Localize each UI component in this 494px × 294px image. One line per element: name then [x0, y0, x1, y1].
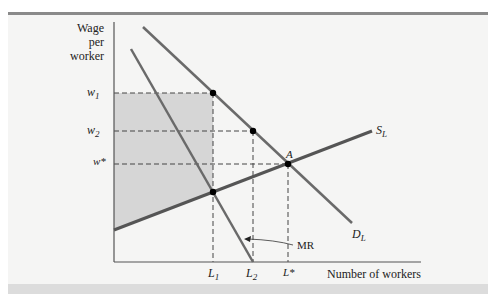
- x-axis-label: Number of workers: [327, 268, 421, 280]
- tick-L2: L2: [246, 267, 257, 282]
- tick-L-star: L*: [283, 267, 295, 278]
- y-label-line-3: worker: [70, 49, 104, 63]
- mr-pointer-arrow: [248, 239, 293, 245]
- arrowhead-icon: [244, 236, 251, 242]
- intersection-points: [210, 90, 291, 195]
- tick-w2: w2: [87, 124, 100, 139]
- y-label-line-2: per: [70, 35, 104, 49]
- tick-L1: L1: [208, 267, 219, 282]
- demand-label: DL: [352, 228, 366, 243]
- tick-w1: w1: [87, 86, 100, 101]
- y-axis-label: Wage per worker: [70, 21, 104, 63]
- tick-w-star: w*: [93, 156, 106, 167]
- y-label-line-1: Wage: [70, 21, 104, 35]
- supply-label: SL: [376, 124, 387, 139]
- point-a-label: A: [286, 149, 293, 160]
- mr-label: MR: [297, 240, 314, 251]
